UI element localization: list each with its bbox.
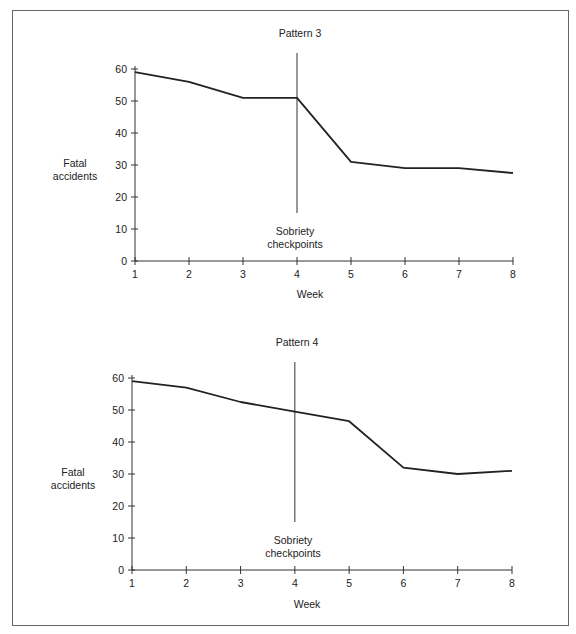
annotation-label-line2: checkpoints (255, 238, 335, 251)
x-tick-label: 5 (346, 577, 352, 589)
annotation-label-line1: Sobriety (255, 225, 335, 238)
y-tick-label: 20 (115, 191, 127, 203)
data-line (132, 381, 512, 474)
x-tick-label: 2 (183, 577, 189, 589)
x-tick-label: 2 (186, 268, 192, 280)
y-tick-label: 10 (115, 223, 127, 235)
y-tick-label: 20 (112, 500, 124, 512)
annotation-label: Sobriety checkpoints (255, 225, 335, 251)
y-axis-label: Fatal accidents (40, 157, 110, 183)
y-axis-label-line1: Fatal (38, 466, 108, 479)
annotation-label-line1: Sobriety (253, 534, 333, 547)
x-tick-label: 7 (456, 268, 462, 280)
y-tick-label: 0 (121, 255, 127, 267)
y-tick-label: 30 (115, 159, 127, 171)
y-tick-label: 60 (112, 372, 124, 384)
y-tick-label: 0 (118, 564, 124, 576)
y-axis-label-line2: accidents (40, 170, 110, 183)
x-axis-label: Week (290, 288, 330, 301)
y-tick-label: 10 (112, 532, 124, 544)
x-tick-label: 4 (294, 268, 300, 280)
y-tick-label: 40 (115, 127, 127, 139)
x-tick-label: 1 (129, 577, 135, 589)
x-tick-label: 8 (510, 268, 516, 280)
data-line (135, 72, 513, 173)
x-tick-label: 7 (455, 577, 461, 589)
annotation-label-line2: checkpoints (253, 547, 333, 560)
y-axis-label: Fatal accidents (38, 466, 108, 492)
y-tick-label: 40 (112, 436, 124, 448)
x-tick-label: 3 (238, 577, 244, 589)
x-tick-label: 1 (132, 268, 138, 280)
x-tick-label: 4 (292, 577, 298, 589)
chart-title: Pattern 4 (267, 336, 327, 349)
y-tick-label: 30 (112, 468, 124, 480)
x-tick-label: 6 (401, 577, 407, 589)
x-tick-label: 8 (509, 577, 515, 589)
y-tick-label: 50 (112, 404, 124, 416)
annotation-label: Sobriety checkpoints (253, 534, 333, 560)
x-tick-label: 3 (240, 268, 246, 280)
chart-title: Pattern 3 (270, 27, 330, 40)
y-axis-label-line2: accidents (38, 479, 108, 492)
y-tick-label: 60 (115, 63, 127, 75)
x-tick-label: 5 (348, 268, 354, 280)
y-tick-label: 50 (115, 95, 127, 107)
x-axis-label: Week (287, 598, 327, 611)
y-axis-label-line1: Fatal (40, 157, 110, 170)
x-tick-label: 6 (402, 268, 408, 280)
